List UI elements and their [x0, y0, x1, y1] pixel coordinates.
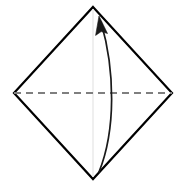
origami-diagram-svg — [0, 0, 182, 186]
origami-diagram-container: Origami fold step diagram Square sheet r… — [0, 0, 182, 186]
